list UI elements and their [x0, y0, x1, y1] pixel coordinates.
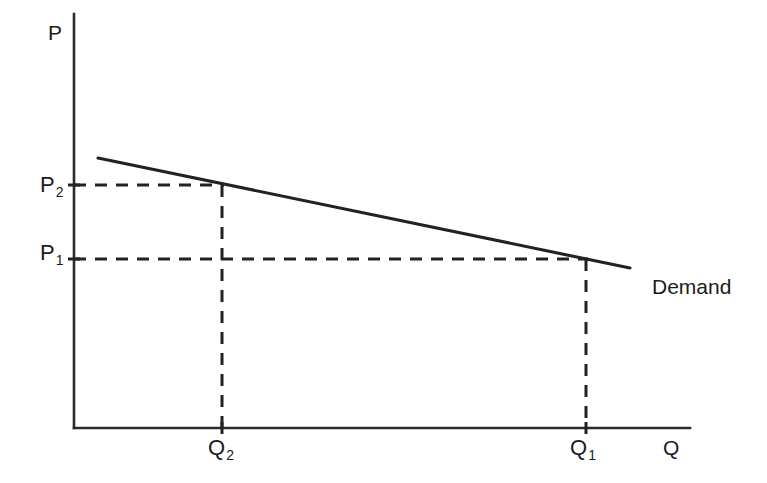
quantity-label-q1-base: Q — [570, 435, 587, 460]
price-label-p2-subscript: 2 — [56, 184, 64, 200]
price-label-p1-subscript: 1 — [56, 252, 64, 268]
demand-curve-label: Demand — [652, 276, 731, 297]
price-label-p1-base: P — [40, 240, 55, 265]
quantity-label-q2: Q2 — [208, 437, 233, 459]
price-label-p2-base: P — [40, 172, 55, 197]
demand-curve-figure: P Q P2 P1 Q2 Q1 Demand — [0, 0, 767, 483]
quantity-label-q2-subscript: 2 — [226, 447, 234, 463]
x-axis-label: Q — [663, 437, 679, 458]
quantity-label-q1: Q1 — [570, 437, 595, 459]
price-label-p2: P2 — [40, 174, 62, 196]
quantity-label-q1-subscript: 1 — [588, 447, 596, 463]
demand-curve-line — [98, 158, 630, 268]
demand-curve-svg — [0, 0, 767, 483]
price-label-p1: P1 — [40, 242, 62, 264]
quantity-label-q2-base: Q — [208, 435, 225, 460]
y-axis-label: P — [48, 22, 62, 43]
